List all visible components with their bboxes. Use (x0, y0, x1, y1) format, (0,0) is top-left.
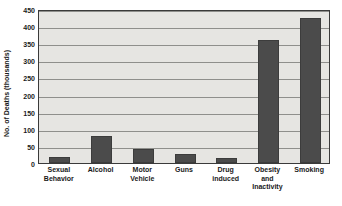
y-tick-label: 150 (23, 109, 35, 116)
x-tick-label-line: Smoking (288, 166, 330, 175)
x-tick-label-line: Alcohol (80, 166, 122, 175)
y-tick-label: 400 (23, 24, 35, 31)
x-tick-label-line: Vehicle (121, 175, 163, 184)
bars-group (39, 11, 329, 163)
y-tick-label: 300 (23, 58, 35, 65)
y-axis-tick-labels: 050100150200250300350400450 (14, 5, 37, 165)
x-tick-label-line: Guns (163, 166, 205, 175)
bar-chart-figure: No. of Deaths (thousands) 05010015020025… (0, 0, 342, 206)
x-tick-label: Smoking (288, 166, 330, 175)
x-tick-label: ObesityandInactivity (247, 166, 289, 192)
y-tick-label: 100 (23, 126, 35, 133)
x-tick-label-line: Sexual (38, 166, 80, 175)
x-tick-label-line: Obesity (247, 166, 289, 175)
x-tick-label-line: induced (205, 175, 247, 184)
x-tick-label: Alcohol (80, 166, 122, 175)
y-tick-label: 0 (31, 161, 35, 168)
x-tick-label: MotorVehicle (121, 166, 163, 183)
bar (216, 158, 237, 163)
y-tick-label: 450 (23, 7, 35, 14)
y-axis-title-label: No. of Deaths (thousands) (4, 49, 11, 136)
bar (300, 18, 321, 163)
bar (91, 136, 112, 163)
y-tick-label: 350 (23, 41, 35, 48)
bar (175, 154, 196, 163)
x-tick-label-line: and (247, 175, 289, 184)
bar (133, 149, 154, 163)
x-tick-label: SexualBehavior (38, 166, 80, 183)
x-tick-label: Druginduced (205, 166, 247, 183)
x-tick-label: Guns (163, 166, 205, 175)
x-axis-tick-labels: SexualBehaviorAlcoholMotorVehicleGunsDru… (38, 166, 330, 206)
y-tick-label: 50 (27, 143, 35, 150)
x-tick-label-line: Inactivity (247, 183, 289, 192)
plot-area (38, 10, 330, 164)
bar (258, 40, 279, 163)
x-tick-label-line: Behavior (38, 175, 80, 184)
bar (49, 157, 70, 163)
y-tick-label: 200 (23, 92, 35, 99)
y-tick-label: 250 (23, 75, 35, 82)
y-axis-title: No. of Deaths (thousands) (0, 28, 14, 158)
x-tick-label-line: Drug (205, 166, 247, 175)
x-tick-label-line: Motor (121, 166, 163, 175)
